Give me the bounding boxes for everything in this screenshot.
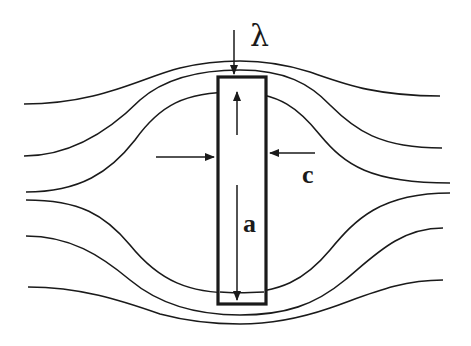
a-label: a	[243, 209, 256, 238]
streamline-crossing-bottom	[220, 292, 264, 293]
obstacle-rectangle	[218, 77, 266, 304]
diagram-canvas: λ a c	[0, 0, 471, 346]
lambda-label: λ	[250, 18, 269, 53]
c-label: c	[302, 160, 314, 189]
